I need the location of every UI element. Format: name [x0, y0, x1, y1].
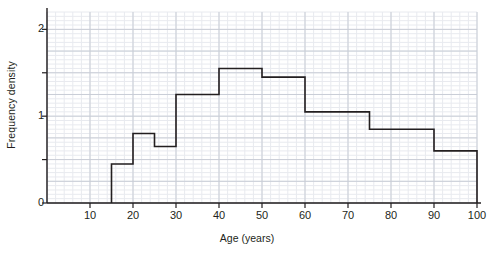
x-axis-tick-label: 50 — [256, 210, 268, 221]
x-axis-tick-label: 60 — [299, 210, 311, 221]
x-axis-tick-label: 80 — [385, 210, 397, 221]
x-axis-tick-label: 70 — [342, 210, 354, 221]
y-axis-title: Frequency density — [0, 0, 22, 210]
y-axis-title-label: Frequency density — [5, 61, 17, 149]
x-axis-title: Age (years) — [0, 232, 494, 244]
histogram-chart: Frequency density 012 102030405060708090… — [0, 0, 494, 258]
x-axis-tick-labels: 102030405060708090100 — [0, 210, 494, 226]
x-axis-tick-label: 100 — [468, 210, 486, 221]
histogram-outline — [112, 68, 478, 203]
y-axis-tick-label: 2 — [26, 23, 44, 34]
histogram-bars — [47, 12, 477, 203]
y-axis-tick-label: 0 — [26, 197, 44, 208]
y-axis-tick-label: 1 — [26, 110, 44, 121]
x-axis-tick-label: 30 — [170, 210, 182, 221]
x-axis-tick-label: 20 — [127, 210, 139, 221]
plot-area — [47, 12, 477, 203]
x-axis-tick-label: 40 — [213, 210, 225, 221]
x-axis-tick-label: 90 — [428, 210, 440, 221]
x-axis-tick-label: 10 — [84, 210, 96, 221]
